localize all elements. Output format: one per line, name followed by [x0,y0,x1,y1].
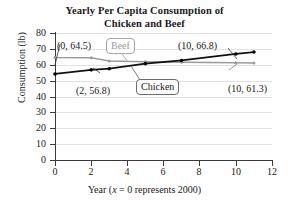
data-point-beef-11 [252,62,255,65]
annotation-chicken-ten: (10, 66.8) [178,40,217,51]
data-point-beef-0 [54,56,57,59]
data-point-chicken-2 [89,68,93,72]
data-point-beef-3 [108,59,111,62]
annotation-beef-start: (0, 64.5) [57,40,91,51]
callout-label-chicken: Chicken [136,79,179,95]
annotation-beef-ten: (10, 61.3) [228,83,267,94]
leader-line-beef-ten [229,64,237,70]
callout-label-beef: Beef [106,38,135,54]
callout-tail-chicken [131,66,140,80]
data-point-chicken-10 [234,52,238,56]
data-point-beef-2 [90,56,93,59]
annotation-chicken-two: (2, 56.8) [76,85,110,96]
data-point-beef-10 [234,61,237,64]
data-point-chicken-11 [252,50,256,54]
data-point-chicken-5 [144,62,148,66]
data-point-chicken-3 [107,67,111,71]
series-layer [0,0,289,204]
chart-page: Yearly Per Capita Consumption of Chicken… [0,0,289,204]
data-point-chicken-0 [53,72,57,76]
data-point-chicken-7 [180,59,184,63]
